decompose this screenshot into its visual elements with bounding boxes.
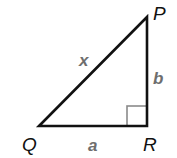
- side-label-a: a: [88, 136, 97, 155]
- side-label-b: b: [153, 69, 163, 88]
- triangle-diagram: P Q R x b a: [0, 0, 177, 158]
- vertex-label-p: P: [153, 3, 166, 24]
- vertex-label-r: R: [143, 134, 157, 155]
- side-label-x: x: [78, 51, 90, 70]
- triangle-pqr: [39, 17, 147, 126]
- right-angle-marker: [127, 106, 147, 126]
- vertex-label-q: Q: [22, 134, 37, 155]
